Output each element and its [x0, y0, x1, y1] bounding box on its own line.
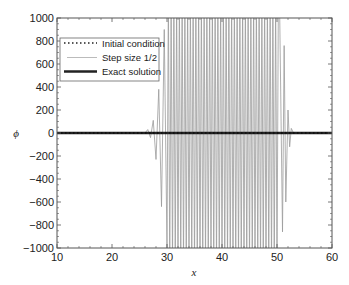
x-tick-label: 60: [326, 251, 338, 263]
y-axis-label: ϕ: [13, 127, 19, 139]
legend: Initial condition Step size 1/2 Exact so…: [60, 38, 165, 82]
y-tick-labels: −1000−800−600−400−20002004006008001000: [23, 12, 54, 254]
y-tick-label: 600: [36, 58, 54, 70]
x-tick-label: 30: [161, 251, 173, 263]
y-tick-label: 800: [36, 35, 54, 47]
x-tick-label: 40: [216, 251, 228, 263]
y-tick-label: 200: [36, 104, 54, 116]
legend-label-initial-condition: Initial condition: [102, 38, 165, 49]
x-axis-label: x: [191, 266, 197, 278]
x-tick-labels: 102030405060: [51, 251, 338, 263]
y-tick-label: 0: [48, 127, 54, 139]
y-tick-label: −1000: [23, 242, 54, 254]
y-tick-label: −600: [29, 196, 54, 208]
legend-label-exact-solution: Exact solution: [102, 66, 161, 77]
x-tick-label: 20: [106, 251, 118, 263]
y-tick-label: −800: [29, 219, 54, 231]
y-tick-label: −400: [29, 173, 54, 185]
y-tick-label: 400: [36, 81, 54, 93]
y-tick-label: −200: [29, 150, 54, 162]
chart: −1000−800−600−400−20002004006008001000 1…: [0, 0, 349, 285]
x-tick-label: 10: [51, 251, 63, 263]
y-tick-label: 1000: [30, 12, 54, 24]
x-tick-label: 50: [271, 251, 283, 263]
legend-label-step-size: Step size 1/2: [102, 52, 157, 63]
